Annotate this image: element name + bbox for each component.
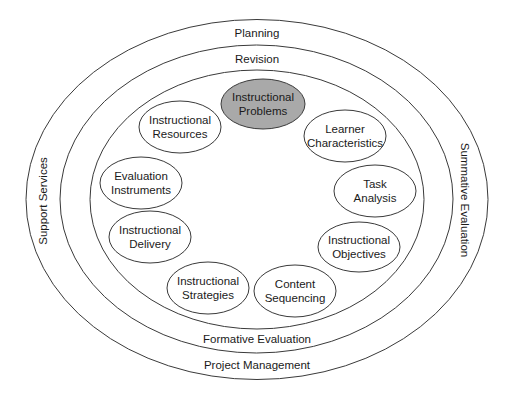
node-label: Strategies	[182, 289, 234, 301]
node-instructional-strategies: InstructionalStrategies	[167, 262, 249, 314]
node-label: Objectives	[332, 248, 386, 260]
instructional-design-model-diagram: Planning Revision Formative Evaluation P…	[0, 0, 513, 393]
node-label: Sequencing	[265, 292, 326, 304]
node-learner-characteristics: LearnerCharacteristics	[304, 110, 386, 162]
node-label: Instruments	[111, 184, 171, 196]
node-label: Evaluation	[114, 170, 168, 182]
node-label: Instructional	[232, 91, 294, 103]
label-support-services: Support Services	[37, 157, 49, 245]
node-label: Delivery	[129, 238, 171, 250]
node-content-sequencing: ContentSequencing	[254, 265, 336, 317]
node-label: Analysis	[354, 192, 397, 204]
node-label: Learner	[325, 123, 365, 135]
node-label: Characteristics	[307, 137, 383, 149]
outer-ring	[26, 20, 488, 380]
node-label: Instructional	[328, 234, 390, 246]
label-summative-evaluation: Summative Evaluation	[459, 143, 471, 257]
node-instructional-delivery: InstructionalDelivery	[109, 211, 191, 263]
node-label: Instructional	[119, 224, 181, 236]
node-instructional-objectives: InstructionalObjectives	[318, 222, 400, 272]
node-label: Instructional	[149, 114, 211, 126]
node-label: Content	[275, 278, 316, 290]
label-planning: Planning	[235, 27, 280, 39]
node-instructional-resources: InstructionalResources	[139, 101, 221, 153]
node-label: Task	[363, 178, 387, 190]
label-project-management: Project Management	[204, 359, 311, 371]
node-task-analysis: TaskAnalysis	[334, 165, 416, 217]
node-label: Problems	[239, 105, 288, 117]
node-evaluation-instruments: EvaluationInstruments	[100, 157, 182, 209]
nodes-group: InstructionalProblemsLearnerCharacterist…	[100, 79, 416, 317]
node-label: Resources	[153, 128, 208, 140]
node-instructional-problems: InstructionalProblems	[221, 79, 305, 129]
label-revision: Revision	[235, 53, 279, 65]
node-label: Instructional	[177, 275, 239, 287]
label-formative-evaluation: Formative Evaluation	[203, 333, 311, 345]
